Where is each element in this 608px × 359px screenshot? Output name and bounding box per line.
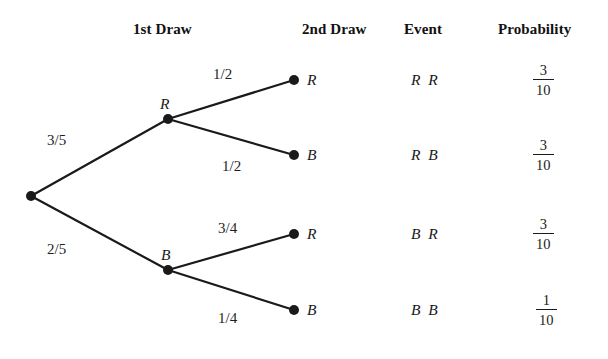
probability-tree-diagram: 1st Draw2nd DrawEventProbability 3/52/51…	[0, 0, 608, 359]
fraction-bar-2	[533, 233, 554, 234]
event-value-3: B B	[411, 302, 440, 318]
branch-root-to-b	[31, 196, 168, 270]
leaf-label-b-r: R	[307, 226, 316, 242]
probability-denominator-0: 10	[533, 81, 554, 98]
node-label-b: B	[161, 247, 170, 263]
event-value-1: R B	[411, 147, 440, 163]
probability-value-2: 310	[533, 216, 554, 252]
column-header-2nd-draw: 2nd Draw	[302, 22, 367, 37]
node-r	[163, 114, 173, 124]
branch-root-to-r	[31, 119, 168, 196]
fraction-bar-3	[536, 309, 557, 310]
branch-r-r	[168, 80, 294, 119]
leaf-label-r-r: R	[307, 72, 316, 88]
leaf-node-b-b	[289, 305, 299, 315]
branch-weight-r-r: 1/2	[213, 67, 232, 82]
probability-denominator-1: 10	[533, 156, 554, 173]
branch-weight-r: 3/5	[47, 133, 66, 148]
node-label-r: R	[160, 96, 169, 112]
probability-numerator-0: 3	[533, 62, 554, 79]
probability-numerator-3: 1	[536, 292, 557, 309]
branch-weight-b: 2/5	[47, 242, 66, 257]
probability-denominator-2: 10	[533, 235, 554, 252]
leaf-node-b-r	[289, 229, 299, 239]
column-header-probability: Probability	[498, 22, 571, 37]
leaf-node-r-r	[289, 75, 299, 85]
branch-weight-b-r: 3/4	[218, 221, 237, 236]
fraction-bar-1	[533, 154, 554, 155]
branch-b-b	[168, 270, 294, 310]
leaf-label-r-b: B	[307, 147, 316, 163]
event-value-2: B R	[411, 226, 440, 242]
leaf-node-r-b	[289, 150, 299, 160]
branch-weight-b-b: 1/4	[218, 311, 237, 326]
node-root	[26, 191, 36, 201]
probability-denominator-3: 10	[536, 311, 557, 328]
probability-numerator-1: 3	[533, 137, 554, 154]
node-b	[163, 265, 173, 275]
branch-weight-r-b: 1/2	[222, 159, 241, 174]
branch-b-r	[168, 234, 294, 270]
fraction-bar-0	[533, 79, 554, 80]
probability-value-3: 110	[536, 292, 557, 328]
column-header-event: Event	[404, 22, 442, 37]
probability-value-0: 310	[533, 62, 554, 98]
column-header-1st-draw: 1st Draw	[133, 22, 192, 37]
probability-value-1: 310	[533, 137, 554, 173]
leaf-label-b-b: B	[307, 302, 316, 318]
branch-lines	[31, 80, 294, 310]
event-value-0: R R	[411, 72, 440, 88]
probability-numerator-2: 3	[533, 216, 554, 233]
branch-r-b	[168, 119, 294, 155]
tree-branches-svg	[0, 0, 608, 359]
